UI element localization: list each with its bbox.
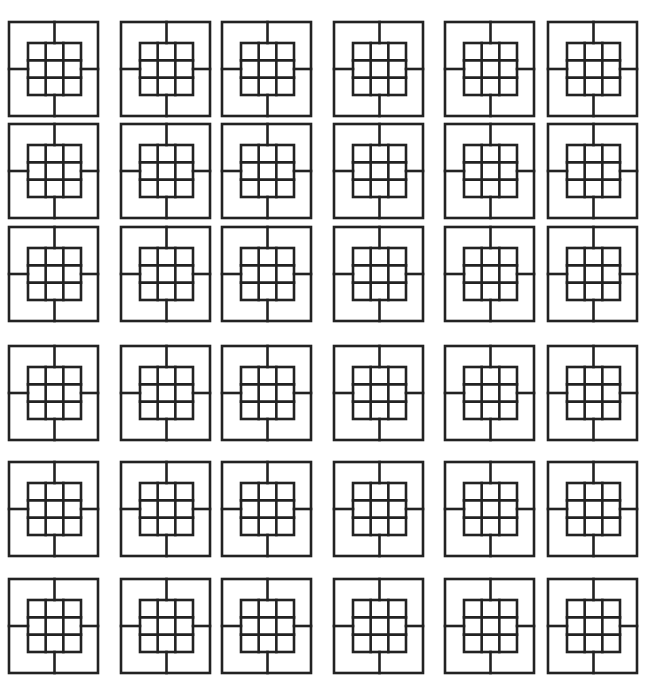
grid-frame-icon [121, 579, 210, 673]
grid-frame-icon [445, 346, 534, 440]
tile-r4-c5 [445, 346, 534, 440]
grid-frame-icon [121, 227, 210, 321]
tile-r4-c6 [548, 346, 637, 440]
tile-r2-c6 [548, 124, 637, 218]
tile-r2-c1 [9, 124, 98, 218]
grid-frame-icon [9, 579, 98, 673]
tile-r3-c3 [222, 227, 311, 321]
tile-r5-c2 [121, 462, 210, 556]
tile-r4-c2 [121, 346, 210, 440]
tile-r1-c5 [445, 22, 534, 116]
tile-r4-c1 [9, 346, 98, 440]
grid-frame-icon [222, 462, 311, 556]
tile-r3-c2 [121, 227, 210, 321]
grid-frame-icon [222, 227, 311, 321]
grid-frame-icon [548, 227, 637, 321]
tile-r2-c3 [222, 124, 311, 218]
grid-frame-icon [548, 579, 637, 673]
tile-r6-c2 [121, 579, 210, 673]
tile-r2-c2 [121, 124, 210, 218]
tile-r3-c4 [334, 227, 423, 321]
grid-frame-icon [222, 579, 311, 673]
grid-frame-icon [548, 22, 637, 116]
grid-frame-icon [121, 124, 210, 218]
grid-frame-icon [445, 579, 534, 673]
tile-r1-c2 [121, 22, 210, 116]
grid-frame-icon [548, 124, 637, 218]
tile-r6-c6 [548, 579, 637, 673]
tile-r1-c4 [334, 22, 423, 116]
tile-r2-c5 [445, 124, 534, 218]
grid-frame-icon [548, 462, 637, 556]
tile-r6-c3 [222, 579, 311, 673]
grid-frame-icon [121, 22, 210, 116]
grid-frame-icon [445, 227, 534, 321]
grid-frame-icon [334, 462, 423, 556]
grid-frame-icon [9, 124, 98, 218]
tile-r3-c1 [9, 227, 98, 321]
tile-r2-c4 [334, 124, 423, 218]
tile-r4-c4 [334, 346, 423, 440]
tile-r5-c6 [548, 462, 637, 556]
tile-r6-c4 [334, 579, 423, 673]
grid-frame-icon [222, 124, 311, 218]
tile-r6-c1 [9, 579, 98, 673]
tile-r1-c1 [9, 22, 98, 116]
grid-frame-icon [445, 22, 534, 116]
grid-frame-icon [334, 22, 423, 116]
grid-frame-icon [334, 124, 423, 218]
grid-frame-icon [548, 346, 637, 440]
tile-r1-c3 [222, 22, 311, 116]
tile-board [0, 0, 647, 682]
tile-r4-c3 [222, 346, 311, 440]
grid-frame-icon [121, 462, 210, 556]
grid-frame-icon [334, 346, 423, 440]
grid-frame-icon [222, 22, 311, 116]
grid-frame-icon [222, 346, 311, 440]
grid-frame-icon [334, 227, 423, 321]
tile-r6-c5 [445, 579, 534, 673]
grid-frame-icon [9, 346, 98, 440]
grid-frame-icon [9, 462, 98, 556]
grid-frame-icon [121, 346, 210, 440]
tile-r5-c3 [222, 462, 311, 556]
tile-r5-c5 [445, 462, 534, 556]
tile-r3-c5 [445, 227, 534, 321]
grid-frame-icon [445, 124, 534, 218]
grid-frame-icon [9, 227, 98, 321]
tile-r3-c6 [548, 227, 637, 321]
grid-frame-icon [334, 579, 423, 673]
grid-frame-icon [445, 462, 534, 556]
tile-r1-c6 [548, 22, 637, 116]
tile-r5-c1 [9, 462, 98, 556]
tile-r5-c4 [334, 462, 423, 556]
grid-frame-icon [9, 22, 98, 116]
